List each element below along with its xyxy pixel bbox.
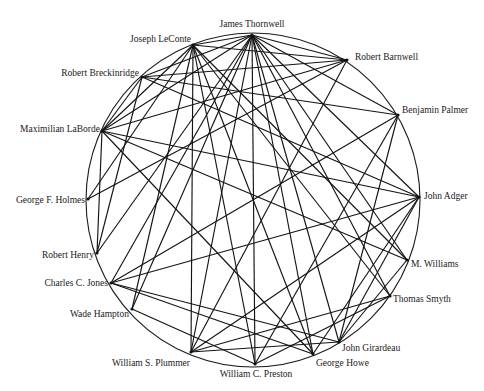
node-point bbox=[311, 352, 314, 355]
node-label: Maximilian LaBorde bbox=[20, 124, 100, 134]
node-point bbox=[250, 33, 253, 36]
node-label: Thomas Smyth bbox=[393, 294, 451, 304]
edge bbox=[142, 77, 419, 197]
edge bbox=[111, 283, 313, 354]
edge bbox=[102, 77, 142, 131]
node-label: James Thornwell bbox=[220, 19, 285, 29]
node-label: Charles C. Jones bbox=[44, 278, 108, 288]
edge-group bbox=[88, 35, 419, 364]
node-label: George Howe bbox=[316, 358, 369, 368]
node-point bbox=[417, 195, 420, 198]
node-label: Benjamin Palmer bbox=[402, 105, 469, 115]
node-label: John Adger bbox=[424, 191, 468, 201]
edge bbox=[313, 197, 419, 354]
network-diagram: James ThornwellRobert BarnwellBenjamin P… bbox=[0, 0, 484, 391]
node-point bbox=[140, 75, 143, 78]
node-label: Robert Breckinridge bbox=[61, 68, 139, 78]
edge bbox=[111, 197, 419, 283]
edge bbox=[132, 45, 193, 309]
node-label: Robert Henry bbox=[42, 250, 94, 260]
node-point bbox=[86, 197, 89, 200]
node-label: Wade Hampton bbox=[70, 309, 129, 319]
node-point bbox=[191, 43, 194, 46]
edge bbox=[193, 45, 407, 260]
node-point bbox=[130, 307, 133, 310]
edge bbox=[252, 35, 398, 115]
node-point bbox=[345, 58, 348, 61]
label-group: James ThornwellRobert BarnwellBenjamin P… bbox=[16, 19, 469, 379]
node-point bbox=[253, 362, 256, 365]
edge bbox=[102, 131, 419, 197]
edge bbox=[97, 77, 142, 253]
node-point bbox=[100, 129, 103, 132]
node-point bbox=[109, 281, 112, 284]
node-label: William S. Plummer bbox=[112, 358, 191, 368]
node-label: Joseph LeConte bbox=[130, 34, 191, 44]
edge bbox=[252, 35, 339, 342]
node-point bbox=[388, 294, 391, 297]
node-point bbox=[189, 350, 192, 353]
node-label: George F. Holmes bbox=[16, 195, 85, 205]
node-point bbox=[337, 340, 340, 343]
node-point bbox=[396, 113, 399, 116]
edge bbox=[255, 296, 390, 364]
node-label: John Girardeau bbox=[342, 343, 401, 353]
edge bbox=[255, 115, 398, 364]
node-point bbox=[95, 251, 98, 254]
edge bbox=[191, 45, 193, 352]
node-label: William C. Preston bbox=[220, 369, 293, 379]
node-label: Robert Barnwell bbox=[355, 52, 418, 62]
edge bbox=[191, 342, 339, 352]
node-label: M. Williams bbox=[411, 259, 459, 269]
edge bbox=[88, 60, 347, 199]
node-point bbox=[405, 258, 408, 261]
